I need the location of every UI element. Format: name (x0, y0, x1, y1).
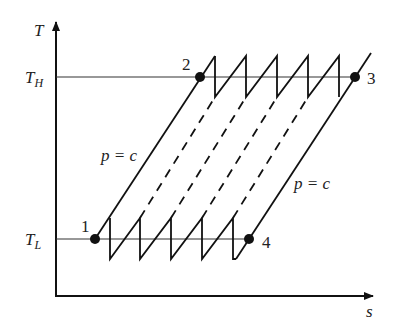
state-point-2 (195, 72, 205, 82)
dashed-isobar-2 (171, 97, 246, 218)
y-axis-label: T (34, 21, 45, 40)
point-2-label: 2 (182, 55, 191, 74)
tl-label: TL (25, 230, 41, 252)
point-3-label: 3 (367, 69, 376, 88)
dashed-isobar-1 (140, 97, 215, 218)
x-axis-label: s (366, 302, 373, 321)
point-4-label: 4 (262, 233, 271, 252)
th-label: TH (25, 68, 44, 90)
right-isobar-label: p = c (293, 174, 330, 193)
dashed-isobar-4 (233, 97, 308, 218)
point-1-label: 1 (81, 217, 90, 236)
state-point-3 (350, 72, 360, 82)
left-isobar-label: p = c (100, 146, 137, 165)
dashed-isobar-3 (202, 97, 277, 218)
state-point-4 (244, 234, 254, 244)
t-s-diagram: T s TH TL 1 2 3 4 p = c p = c (0, 0, 402, 328)
state-point-1 (90, 234, 100, 244)
dashed-isobars (140, 97, 308, 218)
